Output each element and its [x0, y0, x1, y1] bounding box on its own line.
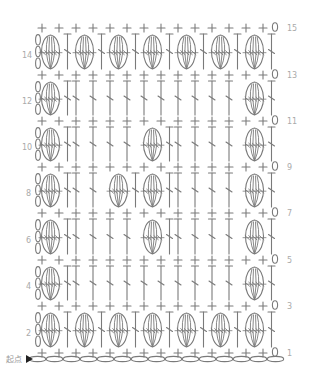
row-label-10: 10	[22, 143, 32, 152]
turning-chain-icon	[272, 301, 277, 309]
row-label-8: 8	[26, 189, 31, 198]
turning-chain-icon	[36, 336, 41, 346]
foundation-chain-icon	[131, 356, 147, 361]
turning-chain-icon	[36, 231, 41, 241]
turning-chain-icon	[36, 93, 41, 103]
turning-chain-icon	[36, 313, 41, 323]
turning-chain-icon	[36, 35, 41, 45]
foundation-chain-icon	[250, 356, 266, 361]
foundation-chain-icon	[216, 356, 232, 361]
turning-chain-icon	[272, 208, 277, 216]
turning-chain-icon	[36, 139, 41, 149]
start-point-label: 起点	[6, 355, 22, 364]
row-label-3: 3	[287, 302, 292, 311]
turning-chain-icon	[36, 267, 41, 277]
turning-chain-icon	[36, 185, 41, 195]
turning-chain-icon	[272, 23, 277, 31]
row-label-5: 5	[287, 256, 292, 265]
foundation-chain-icon	[46, 356, 62, 361]
foundation-chain-icon	[63, 356, 79, 361]
foundation-chain-icon	[233, 356, 249, 361]
row-label-14: 14	[22, 51, 32, 60]
turning-chain-icon	[36, 243, 41, 253]
foundation-chain-icon	[165, 356, 181, 361]
foundation-chain-icon	[114, 356, 130, 361]
row-label-7: 7	[287, 209, 292, 218]
foundation-chain-icon	[267, 356, 283, 361]
foundation-chain-icon	[97, 356, 113, 361]
foundation-chain-icon	[182, 356, 198, 361]
row-label-9: 9	[287, 163, 292, 172]
row-label-15: 15	[287, 24, 297, 33]
row-label-4: 4	[26, 282, 31, 291]
turning-chain-icon	[272, 116, 277, 124]
turning-chain-icon	[36, 196, 41, 206]
row-label-13: 13	[287, 71, 297, 80]
crochet-chart: 1 2 3 4 5 6 7 8 9 10 11 12 13 14 15 起点	[0, 0, 317, 376]
turning-chain-icon	[36, 46, 41, 56]
turning-chain-icon	[36, 128, 41, 138]
turning-chain-icon	[36, 174, 41, 184]
row-label-2: 2	[26, 329, 31, 338]
turning-chain-icon	[272, 162, 277, 170]
row-label-1: 1	[287, 349, 292, 358]
turning-chain-icon	[36, 150, 41, 160]
turning-chain-icon	[36, 58, 41, 68]
foundation-chain-icon	[80, 356, 96, 361]
start-arrow-icon	[26, 355, 33, 363]
turning-chain-icon	[272, 255, 277, 263]
foundation-chain-icon	[148, 356, 164, 361]
row-label-6: 6	[26, 236, 31, 245]
turning-chain-icon	[36, 324, 41, 334]
turning-chain-icon	[36, 289, 41, 299]
turning-chain-icon	[36, 104, 41, 114]
row-label-12: 12	[22, 97, 32, 106]
stitch-layer	[29, 23, 283, 362]
foundation-chain-icon	[199, 356, 215, 361]
turning-chain-icon	[36, 82, 41, 92]
turning-chain-icon	[36, 278, 41, 288]
turning-chain-icon	[36, 220, 41, 230]
turning-chain-icon	[272, 70, 277, 78]
turning-chain-icon	[272, 348, 277, 356]
row-label-11: 11	[287, 117, 297, 126]
